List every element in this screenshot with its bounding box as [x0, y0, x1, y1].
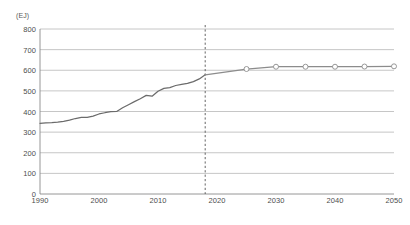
data-point-projection-2030 — [274, 64, 279, 69]
series-line-historical — [40, 75, 205, 123]
data-point-projection-2025 — [244, 67, 249, 72]
plot-area — [0, 0, 410, 225]
data-point-projection-2050 — [392, 64, 397, 69]
data-series-lines — [40, 66, 394, 123]
data-point-projection-2040 — [333, 64, 338, 69]
energy-outlook-line-chart: (EJ) 8007006005004003002001000 199020002… — [0, 0, 410, 225]
data-point-projection-2045 — [362, 64, 367, 69]
gridlines — [40, 29, 394, 194]
data-point-projection-2035 — [303, 64, 308, 69]
